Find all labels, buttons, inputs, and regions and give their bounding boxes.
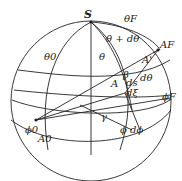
label-theta-plus-dtheta: θ + dθ (106, 34, 139, 44)
label-phi-0: ϕ0 (25, 125, 38, 135)
label-phi-dphi: ϕ dϕ (120, 125, 143, 135)
sphere-drawing (0, 0, 182, 181)
label-A-F: AF (160, 40, 174, 50)
label-S: S (84, 10, 92, 20)
label-theta: θ (99, 52, 105, 62)
label-phi-F: ϕF (162, 92, 176, 102)
label-gamma: γ (101, 112, 107, 122)
label-A: A (111, 79, 118, 89)
label-theta-F: θF (124, 14, 137, 24)
line-A0-A (36, 93, 125, 120)
spherical-geometry-diagram: S θF θ + dθ AF θ0 θ A' β dθ ds A dξ ϕF γ… (0, 0, 182, 181)
latitude-2 (14, 90, 171, 97)
label-A-prime: A' (142, 55, 152, 65)
meridian-theta0 (45, 22, 91, 150)
label-theta-0: θ0 (44, 52, 56, 62)
label-d-theta: dθ (140, 73, 152, 83)
label-A-0: A0 (38, 134, 52, 144)
label-d-xi: dξ (126, 88, 138, 98)
